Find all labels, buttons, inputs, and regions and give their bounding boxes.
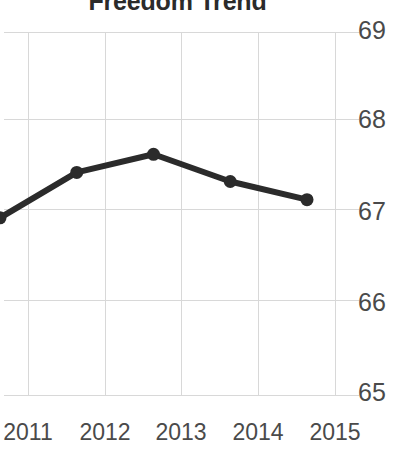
x-axis-label-2015: 2015 [295, 420, 375, 445]
y-axis-label-68: 68 [358, 107, 398, 132]
x-axis-label-2012: 2012 [65, 420, 145, 445]
marker-group [0, 148, 314, 225]
chart-container: Freedom Trend 69 68 67 66 65 2011 2012 2… [0, 0, 403, 451]
data-point-2014 [224, 175, 237, 188]
y-axis-label-69: 69 [358, 18, 398, 43]
data-point-2013 [147, 148, 160, 161]
x-axis-label-2014: 2014 [218, 420, 298, 445]
y-axis-label-65: 65 [358, 380, 398, 405]
data-series-line [0, 0, 375, 419]
line-path [0, 154, 307, 218]
data-point-2015 [301, 193, 314, 206]
data-point-2012 [70, 166, 83, 179]
y-axis-label-67: 67 [358, 199, 398, 224]
x-axis-label-2013: 2013 [141, 420, 221, 445]
y-axis-label-66: 66 [358, 290, 398, 315]
x-axis-label-2011: 2011 [0, 420, 68, 445]
